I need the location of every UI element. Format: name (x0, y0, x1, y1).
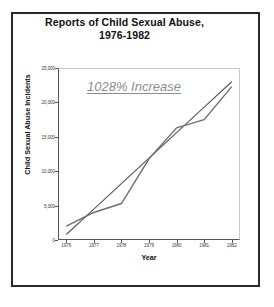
x-tick-label: 1982 (227, 243, 237, 248)
x-tick-label: 1977 (89, 243, 99, 248)
x-tick-label: 1981 (199, 243, 209, 248)
y-tick-mark (55, 137, 58, 138)
x-tick-mark (177, 240, 178, 243)
increase-annotation: 1028% Increase (64, 79, 204, 94)
x-axis-label: Year (58, 253, 240, 262)
chart-title-line1: Reports of Child Sexual Abuse, (45, 16, 204, 28)
y-tick-label: 0 (22, 238, 55, 243)
x-tick-mark (232, 240, 233, 243)
x-tick-mark (204, 240, 205, 243)
x-tick-mark (66, 240, 67, 243)
y-tick-mark (55, 68, 58, 69)
x-axis-ticks: 1976197719781979198019811982 (58, 243, 240, 253)
x-tick-label: 1976 (61, 243, 71, 248)
x-tick-label: 1979 (144, 243, 154, 248)
chart-title-line2: 1976-1982 (14, 29, 235, 42)
y-tick-mark (55, 240, 58, 241)
y-tick-label: 5,000 (22, 203, 55, 208)
x-tick-label: 1980 (172, 243, 182, 248)
y-axis-label: Child Sexual Abuse Incidents (23, 50, 32, 200)
y-tick-mark (55, 102, 58, 103)
y-tick-mark (55, 171, 58, 172)
x-tick-mark (149, 240, 150, 243)
data-line-path (66, 87, 231, 227)
chart-page: Reports of Child Sexual Abuse, 1976-1982… (0, 0, 274, 307)
x-tick-mark (94, 240, 95, 243)
y-tick-mark (55, 206, 58, 207)
chart-title: Reports of Child Sexual Abuse, 1976-1982 (14, 16, 235, 42)
x-tick-mark (121, 240, 122, 243)
x-tick-label: 1978 (117, 243, 127, 248)
